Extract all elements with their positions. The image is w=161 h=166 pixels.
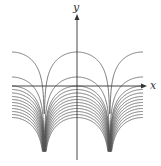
curve-10 <box>12 112 143 164</box>
curve-12 <box>12 118 143 166</box>
x-axis-arrow-icon <box>141 84 147 89</box>
curve-family-plot <box>0 0 161 165</box>
y-axis-label: y <box>73 2 79 13</box>
x-axis-label: x <box>150 80 156 91</box>
curve-9 <box>12 109 143 161</box>
curves <box>12 52 143 165</box>
curve-3 <box>12 90 143 152</box>
curve-11 <box>12 115 143 166</box>
y-axis-arrow-icon <box>75 14 80 20</box>
